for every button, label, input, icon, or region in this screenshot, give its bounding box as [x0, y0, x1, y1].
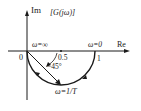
origin-label: 0 [19, 54, 23, 62]
tick-half [60, 50, 62, 52]
im-axis-arrow-icon [25, 10, 29, 16]
angle-label: −45° [47, 63, 62, 71]
half-label: 0.5 [58, 54, 67, 62]
omega-infinity-label: ω=∞ [32, 41, 48, 49]
one-label: 1 [97, 55, 101, 63]
diagram-title: [G(jω)] [50, 9, 75, 17]
re-axis-label: Re [117, 41, 126, 49]
omega-1-over-t-label: ω=1/T [55, 88, 77, 96]
re-axis-arrow-icon [124, 49, 130, 53]
omega-zero-label: ω=0 [88, 41, 102, 49]
im-axis-label: Im [31, 6, 41, 15]
